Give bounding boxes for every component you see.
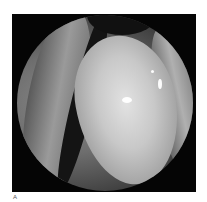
panel-label: A — [13, 194, 17, 200]
endoscopic-image-frame — [12, 14, 196, 192]
specular-highlight — [158, 79, 162, 89]
specular-highlight — [122, 97, 132, 103]
endoscopic-view — [17, 15, 193, 191]
specular-highlight — [151, 70, 154, 73]
